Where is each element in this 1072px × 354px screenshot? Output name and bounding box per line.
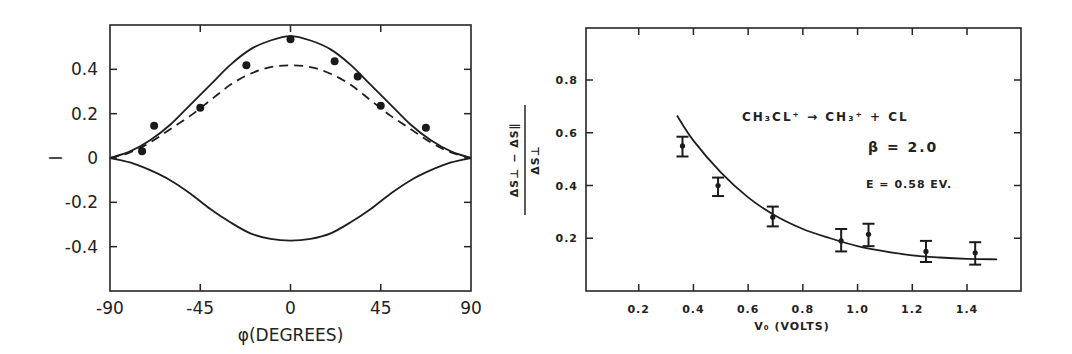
data-point [377, 102, 385, 110]
y-tick-label: 0.4 [71, 59, 98, 79]
x-tick-label: 90 [460, 298, 482, 318]
y-tick-label: 0 [87, 148, 98, 168]
solid-theory-curve [110, 158, 471, 241]
data-point [680, 143, 685, 148]
data-point [196, 104, 204, 112]
beta-annotation: β = 2.0 [868, 139, 938, 155]
left-chart: 0.40.20-0.2-0.4-90-4504590Iφ(DEGREES) [46, 25, 482, 345]
data-point [973, 250, 978, 255]
data-point [331, 57, 339, 65]
y-tick-label: 0.4 [556, 180, 579, 193]
x-tick-label: 45 [370, 298, 392, 318]
y-tick-label: 0.8 [556, 74, 579, 87]
y-tick-label: -0.4 [65, 237, 98, 257]
data-point [422, 124, 430, 132]
y-label-numerator: ΔS⊥ − ΔS∥ [508, 123, 521, 197]
data-point [150, 122, 158, 130]
x-tick-label: -90 [96, 298, 124, 318]
x-tick-label: 0 [285, 298, 296, 318]
data-point [923, 249, 928, 254]
solid-theory-curve [110, 36, 471, 158]
right-chart: 0.80.60.40.20.20.40.60.81.01.21.4V₀ (VOL… [508, 28, 1021, 333]
x-tick-label: 0.4 [682, 303, 705, 316]
data-point [138, 147, 146, 155]
x-tick-label: 0.6 [737, 303, 760, 316]
y-tick-label: 0.2 [556, 232, 579, 245]
x-tick-label: 1.2 [901, 303, 924, 316]
figure-canvas: 0.40.20-0.2-0.4-90-4504590Iφ(DEGREES) 0.… [0, 0, 1072, 354]
x-tick-label: 0.8 [792, 303, 815, 316]
x-tick-label: 1.0 [846, 303, 869, 316]
data-point [354, 72, 362, 80]
reaction-annotation: CH₃CL⁺ → CH₃⁺ + CL [742, 110, 909, 124]
y-axis-label: ΔS⊥ − ΔS∥ΔS⊥ [508, 105, 542, 215]
plot-frame [586, 28, 1021, 291]
data-point [866, 232, 871, 237]
x-tick-label: -45 [186, 298, 214, 318]
y-tick-label: -0.2 [65, 192, 98, 212]
plot-frame [110, 25, 471, 291]
x-tick-label: 1.4 [956, 303, 979, 316]
x-tick-label: 0.2 [627, 303, 650, 316]
y-tick-label: 0.2 [71, 104, 98, 124]
x-axis-label: φ(DEGREES) [238, 325, 344, 345]
dashed-theory-curve [110, 65, 471, 158]
data-point [715, 183, 720, 188]
y-label-denominator: ΔS⊥ [529, 145, 542, 175]
x-axis-label: V₀ (VOLTS) [754, 320, 830, 333]
y-tick-label: 0.6 [556, 127, 579, 140]
y-axis-label: I [46, 155, 66, 160]
data-point [287, 35, 295, 43]
data-point [242, 61, 250, 69]
energy-annotation: E = 0.58 EV. [866, 178, 952, 191]
